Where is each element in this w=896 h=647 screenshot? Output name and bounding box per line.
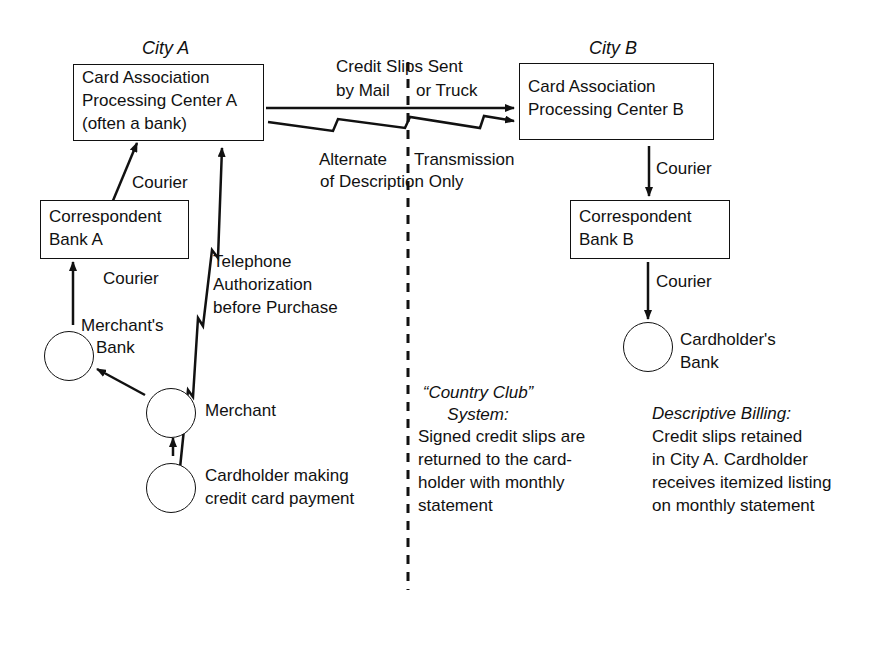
merchant-to-bank-arrow: [97, 369, 145, 395]
telephone-label-line1: Telephone: [213, 251, 291, 273]
country-club-body-line4: statement: [418, 495, 493, 517]
correspondent-bank-b-label: Correspondent Bank B: [579, 205, 691, 251]
city-b-label: City B: [589, 37, 637, 59]
alternate-label-part2: Transmission: [414, 149, 514, 171]
courier-label-a-top: Courier: [132, 172, 188, 194]
courier-label-a-bottom: Courier: [103, 268, 159, 290]
courier-label-b-top: Courier: [656, 158, 712, 180]
courier-label-b-bottom: Courier: [656, 271, 712, 293]
country-club-title-line2: System:: [418, 404, 538, 426]
country-club-body-line2: returned to the card-: [418, 449, 572, 471]
alternate-label-part1: Alternate: [319, 149, 387, 171]
processing-center-a-label: Card Association Processing Center A (of…: [82, 66, 237, 135]
cardholders-bank-label-line1: Cardholder's: [680, 329, 776, 351]
processing-center-b: Card Association Processing Center B: [519, 63, 714, 140]
merchants-bank-label-line2: Bank: [96, 337, 135, 359]
cardholder-label-line2: credit card payment: [205, 488, 354, 510]
cardholders-bank-label-line2: Bank: [680, 352, 719, 374]
country-club-body-line1: Signed credit slips are: [418, 426, 585, 448]
merchant-label: Merchant: [205, 400, 276, 422]
cardholders-bank-node: [623, 322, 673, 372]
alternate-label-line2: of Description Only: [320, 171, 464, 193]
telephone-label-line2: Authorization: [213, 274, 312, 296]
correspondent-bank-b: Correspondent Bank B: [570, 200, 730, 259]
processing-center-a: Card Association Processing Center A (of…: [73, 64, 264, 141]
country-club-title-line1: “Country Club”: [418, 382, 538, 404]
cardholder-node: [146, 463, 196, 513]
descriptive-billing-body-line2: in City A. Cardholder: [652, 449, 808, 471]
descriptive-billing-body-line1: Credit slips retained: [652, 426, 802, 448]
processing-center-b-label: Card Association Processing Center B: [528, 75, 684, 121]
merchants-bank-node: [44, 331, 94, 381]
descriptive-billing-title: Descriptive Billing:: [652, 403, 791, 425]
merchants-bank-label-line1: Merchant's: [81, 315, 164, 337]
merchant-node: [146, 388, 196, 438]
cardholder-label-line1: Cardholder making: [205, 465, 349, 487]
alternate-transmission-arrow: [268, 116, 514, 131]
country-club-body-line3: holder with monthly: [418, 472, 564, 494]
credit-slips-label-line1: Credit Slips Sent: [336, 56, 463, 78]
correspondent-bank-a-label: Correspondent Bank A: [49, 205, 161, 251]
credit-slips-label-by-mail: by Mail: [336, 80, 390, 102]
correspondent-bank-a: Correspondent Bank A: [40, 200, 189, 259]
descriptive-billing-body-line4: on monthly statement: [652, 495, 815, 517]
telephone-label-line3: before Purchase: [213, 297, 338, 319]
credit-slips-label-or-truck: or Truck: [416, 80, 477, 102]
descriptive-billing-body-line3: receives itemized listing: [652, 472, 832, 494]
city-a-label: City A: [142, 37, 189, 59]
